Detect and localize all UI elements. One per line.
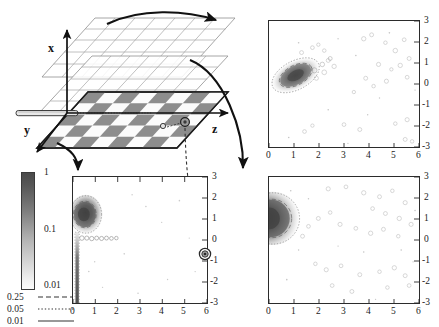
ytick: -3 [422, 142, 430, 152]
ytick: -2 [422, 277, 430, 287]
ytick: 1 [424, 58, 429, 68]
3d-geometry-schematic [0, 0, 260, 175]
colorbar-tick-1: 1 [44, 168, 49, 178]
density-colorbar [21, 172, 35, 290]
panel-top-right-plot [269, 21, 419, 147]
axis-label-z: z [212, 122, 217, 137]
xtick: 0 [266, 151, 271, 161]
xtick: 2 [316, 151, 321, 161]
ytick: 2 [424, 193, 429, 203]
ytick: 2 [424, 37, 429, 47]
xtick: 5 [391, 307, 396, 317]
panel-bottom-left-plot [73, 177, 207, 303]
xtick: 2 [114, 307, 119, 317]
legend-label-025: 0.25 [7, 293, 24, 303]
xtick: 1 [291, 307, 296, 317]
xtick: 3 [137, 307, 142, 317]
xtick: 0 [266, 307, 271, 317]
ytick: 2 [212, 193, 217, 203]
ytick: -2 [422, 121, 430, 131]
xtick: 1 [92, 307, 97, 317]
legend-label-001: 0.01 [7, 317, 24, 327]
xtick: 4 [366, 307, 371, 317]
ytick: 1 [212, 214, 217, 224]
colorbar-tick-01: 0.1 [44, 225, 56, 235]
xtick: 3 [341, 307, 346, 317]
xtick: 6 [416, 151, 421, 161]
ytick: 3 [424, 16, 429, 26]
ytick: -3 [210, 298, 218, 308]
panel-bottom-left [72, 176, 208, 304]
ytick: -3 [422, 298, 430, 308]
ytick: -1 [210, 256, 218, 266]
xtick: 3 [341, 151, 346, 161]
figure-root: 1 0.1 0.01 0.25 0.05 0.01 [0, 0, 439, 327]
ytick: -1 [422, 100, 430, 110]
ytick: -2 [210, 277, 218, 287]
source-on-plane [160, 123, 165, 128]
xtick: 4 [159, 307, 164, 317]
xtick: 1 [291, 151, 296, 161]
panel-bottom-right [268, 176, 420, 304]
xtick: 5 [391, 151, 396, 161]
legend-label-005: 0.05 [7, 305, 24, 315]
panel-top-right [268, 20, 420, 148]
xtick: 0 [70, 307, 75, 317]
xtick: 4 [366, 151, 371, 161]
xtick: 6 [204, 307, 209, 317]
ytick: 0 [424, 235, 429, 245]
ytick: 3 [212, 172, 217, 182]
xtick: 5 [181, 307, 186, 317]
xtick: 2 [316, 307, 321, 317]
ytick: -1 [422, 256, 430, 266]
ytick: 1 [424, 214, 429, 224]
ytick: 3 [424, 172, 429, 182]
axis-label-y: y [24, 123, 30, 138]
xtick: 6 [416, 307, 421, 317]
ytick: 0 [212, 235, 217, 245]
ytick: 0 [424, 79, 429, 89]
axis-label-x: x [48, 41, 54, 56]
panel-bottom-right-plot [269, 177, 419, 303]
